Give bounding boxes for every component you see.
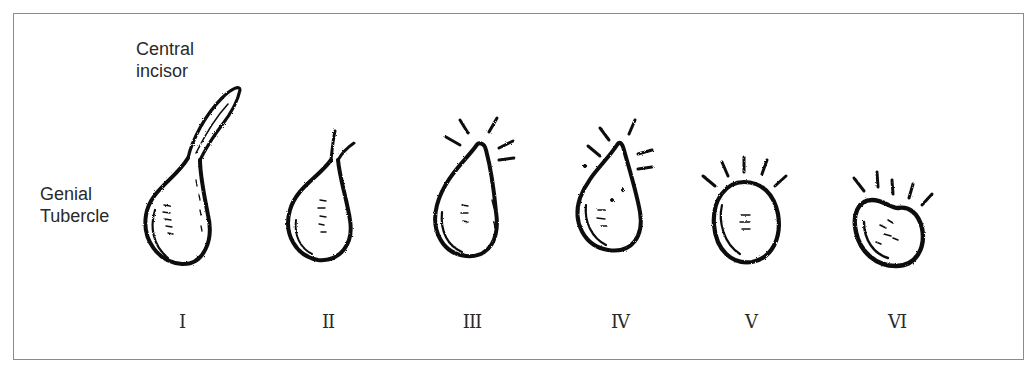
stage-2-drawing bbox=[288, 131, 354, 260]
stage-5-drawing bbox=[703, 157, 786, 262]
stage-label-1: I bbox=[179, 311, 185, 332]
stage-label-2: II bbox=[322, 311, 334, 332]
stage-label-5: V bbox=[745, 311, 757, 332]
stage-1-drawing bbox=[145, 88, 240, 264]
stages-illustration bbox=[0, 0, 1034, 373]
stage-6-drawing bbox=[854, 172, 932, 266]
stage-label-3: III bbox=[463, 311, 481, 332]
stage-4-drawing bbox=[578, 120, 652, 251]
stage-3-drawing bbox=[435, 118, 514, 256]
stage-label-6: VI bbox=[888, 311, 906, 332]
stage-label-4: IV bbox=[611, 311, 629, 332]
